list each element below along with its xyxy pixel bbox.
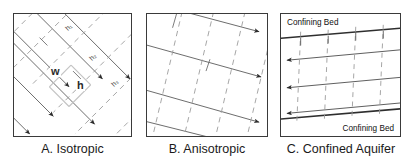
crossing-ticks-b xyxy=(173,14,210,71)
equipotential-line-group-c xyxy=(297,25,384,124)
flow-line-group-b xyxy=(147,14,261,136)
equipotential-line-group-b xyxy=(151,14,267,136)
panel-anisotropic xyxy=(146,13,268,137)
width-symbol-label: w xyxy=(50,66,61,77)
caption-confined-aquifer: C. Confined Aquifer xyxy=(276,139,406,159)
flow-line-group-c xyxy=(287,49,400,113)
confining-bed-label-bottom: Confining Bed xyxy=(342,124,395,133)
anisotropic-flow-net xyxy=(147,14,267,136)
height-symbol-label: h xyxy=(76,80,85,91)
panel-isotropic: h₁ h₂ h₃ w h xyxy=(13,13,132,137)
caption-anisotropic: B. Anisotropic xyxy=(142,139,272,159)
flow-net-figure: h₁ h₂ h₃ w h xyxy=(0,0,417,163)
caption-isotropic: A. Isotropic xyxy=(13,139,132,159)
equipotential-line-group-a xyxy=(14,14,131,136)
confined-aquifer-flow-net xyxy=(281,14,400,136)
isotropic-flow-net xyxy=(14,14,131,136)
confining-bed-label-top: Confining Bed xyxy=(286,18,339,27)
flow-line-group-a xyxy=(14,14,130,134)
panel-confined-aquifer: Confining Bed Confining Bed xyxy=(280,13,401,137)
